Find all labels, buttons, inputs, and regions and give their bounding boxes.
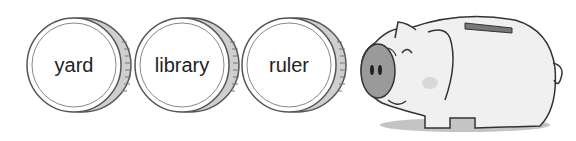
coin-library[interactable]: library (134, 16, 242, 114)
coin-ruler[interactable]: ruler (241, 16, 349, 114)
coins-and-piggy-bank-scene: yard library rul (0, 0, 576, 141)
piggy-bank-icon[interactable] (350, 8, 570, 138)
coin-label: library (134, 16, 230, 114)
coin-label: ruler (241, 16, 337, 114)
coin-label: yard (26, 16, 122, 114)
coin-yard[interactable]: yard (26, 16, 134, 114)
